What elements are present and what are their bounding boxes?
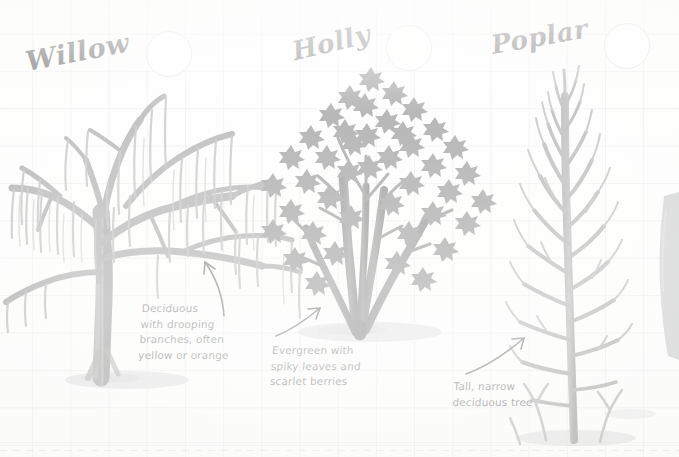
tick-circle-poplar[interactable] xyxy=(604,23,650,69)
holly-foliage xyxy=(261,67,497,296)
annotation-poplar: Tall, narrow deciduous tree xyxy=(452,379,534,410)
holly-tree xyxy=(261,67,497,334)
edge-tree-fragment xyxy=(660,192,679,360)
annotation-willow: Deciduous with drooping branches, often … xyxy=(138,301,233,363)
tick-circle-holly[interactable] xyxy=(386,25,432,71)
tick-circle-willow[interactable] xyxy=(146,31,192,77)
notebook-page: Willow Holly Poplar Deciduous with droop… xyxy=(0,0,679,457)
annotation-holly: Evergreen with spiky leaves and scarlet … xyxy=(269,343,362,390)
